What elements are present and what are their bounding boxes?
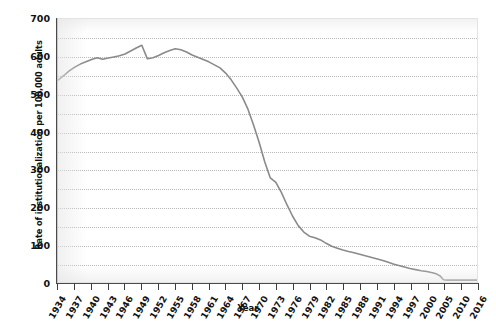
x-tick-mark bbox=[310, 283, 311, 290]
y-axis-tick-labels: 7006005004003002001000 bbox=[0, 0, 58, 300]
x-tick-mark bbox=[478, 283, 479, 290]
plot-area bbox=[57, 18, 478, 283]
x-tick-mark bbox=[461, 283, 462, 290]
x-tick-mark bbox=[444, 283, 445, 290]
x-axis-title: Year bbox=[0, 303, 496, 313]
y-tick-label: 700 bbox=[30, 13, 50, 24]
x-tick-mark bbox=[343, 283, 344, 290]
x-tick-mark bbox=[377, 283, 378, 290]
x-tick-mark bbox=[124, 283, 125, 290]
x-tick-mark bbox=[259, 283, 260, 290]
x-tick-mark bbox=[158, 283, 159, 290]
x-tick-mark bbox=[74, 283, 75, 290]
x-tick-mark bbox=[360, 283, 361, 290]
line-chart: Rate of institutionalization per 100,000… bbox=[0, 0, 496, 330]
x-tick-mark bbox=[242, 283, 243, 290]
x-tick-mark bbox=[394, 283, 395, 290]
x-tick-mark bbox=[175, 283, 176, 290]
series-line bbox=[58, 45, 477, 280]
y-tick-label: 400 bbox=[30, 126, 50, 137]
y-tick-label: 100 bbox=[30, 240, 50, 251]
y-axis-line bbox=[56, 18, 57, 284]
x-tick-mark bbox=[428, 283, 429, 290]
x-tick-mark bbox=[209, 283, 210, 290]
x-tick-mark bbox=[192, 283, 193, 290]
y-tick-label: 600 bbox=[30, 50, 50, 61]
x-tick-mark bbox=[91, 283, 92, 290]
x-tick-mark bbox=[141, 283, 142, 290]
y-tick-label: 200 bbox=[30, 202, 50, 213]
data-line-svg bbox=[58, 19, 477, 282]
y-tick-label: 300 bbox=[30, 164, 50, 175]
y-tick-label: 500 bbox=[30, 88, 50, 99]
x-tick-mark bbox=[108, 283, 109, 290]
x-tick-mark bbox=[326, 283, 327, 290]
x-tick-mark bbox=[276, 283, 277, 290]
x-tick-mark bbox=[225, 283, 226, 290]
x-tick-mark bbox=[293, 283, 294, 290]
x-tick-mark bbox=[411, 283, 412, 290]
x-tick-mark bbox=[57, 283, 58, 290]
